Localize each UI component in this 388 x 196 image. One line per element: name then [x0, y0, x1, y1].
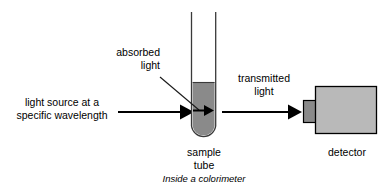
label-light-source: light source at a specific wavelength	[6, 96, 118, 121]
label-absorbed-light: absorbed light	[78, 46, 160, 71]
transmitted-light-arrow	[222, 105, 302, 120]
colorimeter-diagram: light source at a specific wavelength ab…	[0, 0, 388, 196]
label-sample-tube: sample tube	[164, 146, 244, 171]
sample-tube-shape	[192, 12, 216, 137]
detector-window	[304, 101, 317, 123]
label-detector: detector	[312, 146, 382, 159]
diagram-caption: Inside a colorimeter	[124, 173, 284, 186]
detector-body	[316, 87, 377, 134]
light-source-arrow	[118, 105, 194, 120]
label-transmitted-light: transmitted light	[222, 72, 306, 97]
